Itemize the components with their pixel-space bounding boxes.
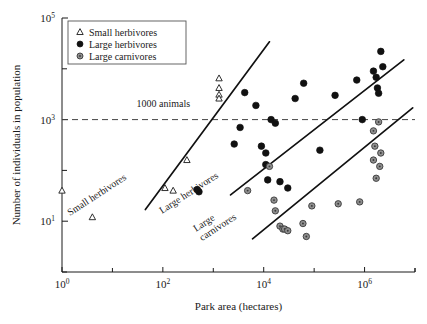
data-point (373, 74, 380, 81)
data-points-layer (59, 48, 386, 240)
data-point (378, 48, 385, 55)
legend-label: Small herbivores (89, 27, 157, 38)
data-point (216, 75, 222, 81)
data-point (375, 119, 381, 125)
data-point (300, 80, 307, 87)
data-point (277, 178, 284, 185)
data-point (266, 163, 272, 169)
data-point (378, 150, 384, 156)
data-point (272, 208, 278, 214)
legend-label: Large herbivores (89, 39, 157, 50)
data-point (332, 92, 339, 99)
y-tick-label: 101 (40, 214, 55, 227)
data-point (380, 63, 387, 70)
data-point (237, 124, 244, 131)
series-large-herbivores (194, 48, 386, 195)
legend-marker-circle-filled (77, 41, 83, 47)
legend-label: Large carnivores (89, 51, 156, 62)
data-point (370, 68, 377, 75)
x-tick-label: 104 (256, 277, 271, 290)
data-point (335, 201, 341, 207)
data-point (284, 185, 291, 192)
data-point (244, 187, 250, 193)
data-point (231, 141, 238, 148)
x-tick-label: 102 (155, 277, 170, 290)
data-point (303, 233, 309, 239)
scatter-plot: 100102104106105103101Park area (hectares… (0, 0, 427, 324)
data-point (317, 147, 324, 154)
data-point (264, 177, 271, 184)
legend-item[interactable]: Large herbivores (77, 39, 157, 50)
chart-figure: 100102104106105103101Park area (hectares… (0, 0, 427, 324)
data-point (258, 143, 265, 150)
y-tick-label: 105 (40, 11, 55, 24)
data-point (292, 95, 299, 102)
legend-item[interactable]: Small herbivores (77, 27, 157, 38)
data-point (375, 90, 382, 97)
data-point (373, 175, 379, 181)
data-point (285, 228, 291, 234)
data-point (353, 77, 360, 84)
data-point (309, 203, 315, 209)
data-point (377, 163, 383, 169)
legend-marker-circle-gray (77, 53, 83, 59)
large-carnivores-trend (253, 108, 413, 239)
data-point (253, 102, 260, 109)
data-point (370, 157, 376, 163)
small-herbivores-trend-label: Small herbivores (65, 171, 128, 217)
data-point (370, 128, 376, 134)
data-point (359, 116, 366, 123)
data-point (59, 187, 65, 193)
data-point (263, 150, 270, 157)
x-tick-label: 100 (55, 277, 70, 290)
data-point (272, 120, 279, 127)
data-point (216, 85, 222, 91)
data-point (89, 214, 95, 220)
legend-item[interactable]: Large carnivores (77, 51, 156, 62)
x-axis-title: Park area (hectares) (195, 300, 283, 313)
large-herbivores-trend-label: Large herbivores (157, 169, 220, 215)
chart-legend: Small herbivoresLarge herbivoresLarge ca… (68, 21, 186, 64)
y-axis-title: Number of individuals in population (10, 64, 22, 225)
thousand-animals-label: 1000 animals (136, 98, 190, 109)
data-point (170, 187, 176, 193)
large-carnivores-trend-label: Largecarnivores (191, 202, 238, 243)
data-point (300, 220, 306, 226)
data-point (271, 197, 277, 203)
x-tick-label: 106 (357, 277, 372, 290)
data-point (356, 199, 362, 205)
y-tick-label: 103 (40, 113, 55, 126)
data-point (241, 89, 248, 96)
data-point (372, 143, 378, 149)
